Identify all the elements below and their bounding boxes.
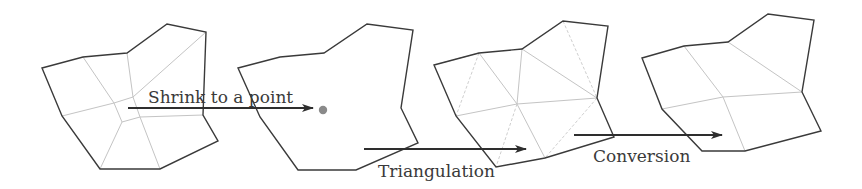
arrow-triangulation: Triangulation <box>364 149 526 181</box>
converted-quad-mesh <box>642 14 821 151</box>
label-triangulation: Triangulation <box>378 161 495 181</box>
arrow-shrink: Shrink to a point <box>128 87 313 108</box>
triangulated-polygon <box>434 21 614 167</box>
label-shrink: Shrink to a point <box>148 87 293 107</box>
polygon-outline <box>434 21 614 167</box>
diagram-canvas: Shrink to a point Triangulation Conversi… <box>0 0 862 189</box>
arrow-conversion: Conversion <box>574 135 722 166</box>
center-point <box>319 106 327 114</box>
polygon-outline <box>642 14 821 151</box>
label-conversion: Conversion <box>593 146 690 166</box>
triangulation-edges <box>434 21 597 167</box>
